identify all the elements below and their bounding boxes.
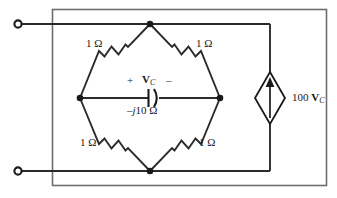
source-variable-subscript: C [319, 96, 324, 105]
impedance-suffix: 10 Ω [136, 104, 158, 116]
circuit-schematic-canvas [0, 0, 337, 198]
arm-wire-top-right [150, 24, 220, 98]
node-dot-right [217, 95, 224, 102]
source-gain-value: 100 [292, 91, 309, 103]
capacitor-voltage-symbol: V [142, 73, 150, 85]
capacitor-impedance-label: –j10 Ω [127, 105, 158, 116]
resistor-label-top-left: 1 Ω [86, 38, 102, 49]
resistor-label-bottom-left: 1 Ω [80, 137, 96, 148]
capacitor-voltage-subscript: C [150, 78, 155, 87]
bottom-terminal-dot-icon [14, 167, 21, 174]
capacitor-polarity-minus: – [166, 74, 172, 86]
node-dot-top [147, 21, 154, 28]
resistor-label-top-right: 1 Ω [196, 38, 212, 49]
capacitor-polarity-plus: + [127, 74, 133, 86]
top-terminal-dot-icon [14, 20, 21, 27]
arm-wire-bottom-right [150, 98, 220, 171]
node-dot-bottom [147, 168, 154, 175]
dependent-source-label: 100 VC [292, 92, 325, 105]
source-variable-symbol: V [311, 91, 319, 103]
node-dot-left [77, 95, 84, 102]
circuit-diagram: 1 Ω 1 Ω 1 Ω 1 Ω + VC – –j10 Ω 100 VC [0, 0, 337, 198]
arm-wire-top-left [80, 24, 150, 98]
capacitor-voltage-label: VC [142, 74, 155, 87]
resistor-label-bottom-right: 1 Ω [199, 137, 215, 148]
